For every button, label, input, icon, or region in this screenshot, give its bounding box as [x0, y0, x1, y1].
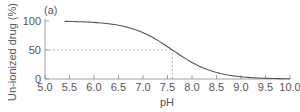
x-tick-label: 6.5	[111, 81, 126, 93]
x-tick-label: 9.5	[258, 81, 273, 93]
x-tick-label: 8.5	[209, 81, 224, 93]
x-tick-label: 8.0	[184, 81, 199, 93]
x-tick-label: 5.5	[62, 81, 77, 93]
y-tick-label: 100	[23, 15, 41, 27]
y-axis-label: Un-ionized drug (%)	[6, 3, 18, 101]
x-tick-label: 7.0	[135, 81, 150, 93]
y-tick-label: 50	[29, 44, 41, 56]
panel-label: (a)	[44, 4, 57, 16]
chart: 5.05.56.06.57.07.58.08.59.09.510.0050100…	[0, 0, 300, 112]
y-tick-label: 0	[35, 73, 41, 85]
x-tick-label: 10.0	[279, 81, 300, 93]
x-axis-label: pH	[160, 96, 174, 108]
x-tick-label: 7.5	[160, 81, 175, 93]
x-tick-label: 9.0	[233, 81, 248, 93]
x-tick-label: 6.0	[86, 81, 101, 93]
